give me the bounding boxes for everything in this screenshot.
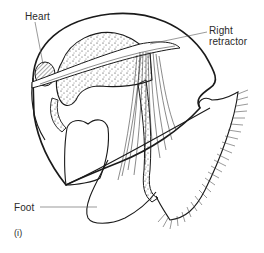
right-retractor-label: Right retractor [209,25,259,47]
heart-leader [35,22,43,64]
foot-label: Foot [14,202,34,213]
anatomy-diagram: Heart Right retractor Foot (i) [0,0,264,253]
panel-id-label: (i) [14,228,22,239]
retractor-leader [150,32,207,44]
heart-label: Heart [25,11,50,22]
